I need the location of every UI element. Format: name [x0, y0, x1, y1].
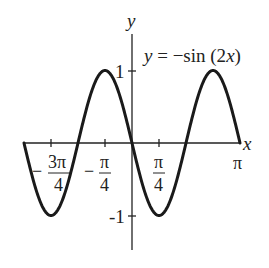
- svg-text:−: −: [84, 161, 94, 181]
- y-tick-label-neg1: -1: [109, 206, 125, 227]
- y-axis-label: y: [125, 10, 136, 31]
- svg-text:3π: 3π: [48, 152, 66, 172]
- svg-text:4: 4: [154, 175, 163, 195]
- x-tick-label-pi4: π 4: [153, 152, 165, 195]
- y-tick-label-1: 1: [115, 61, 125, 82]
- svg-text:π: π: [100, 152, 109, 172]
- svg-text:4: 4: [54, 175, 63, 195]
- x-tick-label-neg3pi4: − 3π 4: [32, 152, 70, 195]
- equation-label: y = −sin (2x): [142, 45, 241, 67]
- x-tick-label-negpi4: − π 4: [84, 152, 111, 195]
- x-tick-label-pi: π: [233, 153, 242, 173]
- svg-text:π: π: [154, 152, 163, 172]
- x-axis-label: x: [242, 133, 252, 154]
- function-plot: y x 1 -1 − 3π 4 − π 4 π 4 π y = −sin (2x…: [0, 0, 269, 268]
- svg-text:4: 4: [100, 175, 109, 195]
